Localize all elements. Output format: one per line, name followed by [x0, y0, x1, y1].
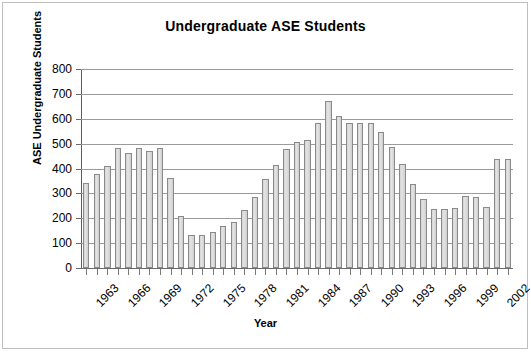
- x-tick-1989: [360, 269, 361, 275]
- y-tick-label-0: 0: [38, 261, 72, 275]
- x-tick-2003: [508, 269, 509, 275]
- gridline-800: [81, 69, 513, 70]
- x-tick-2001: [487, 269, 488, 275]
- y-axis-tick-labels: 0100200300400500600700800: [36, 0, 72, 352]
- gridline-700: [81, 94, 513, 95]
- x-tick-1992: [392, 269, 393, 275]
- x-tick-1999: [466, 269, 467, 275]
- x-tick-1988: [350, 269, 351, 275]
- bar: [452, 208, 458, 268]
- y-tick-200: [76, 218, 81, 219]
- x-tick-1983: [297, 269, 298, 275]
- bar: [483, 207, 489, 268]
- chart-figure: Undergraduate ASE Students ASE Undergrad…: [0, 0, 531, 352]
- bar: [441, 209, 447, 268]
- x-tick-1966: [118, 269, 119, 275]
- x-tick-1997: [445, 269, 446, 275]
- bar: [188, 235, 194, 268]
- bar: [178, 216, 184, 268]
- bar: [494, 159, 500, 268]
- x-tick-1995: [423, 269, 424, 275]
- bar: [420, 199, 426, 268]
- bar: [167, 178, 173, 268]
- x-tick-1985: [318, 269, 319, 275]
- x-tick-2002: [497, 269, 498, 275]
- x-tick-1963: [86, 269, 87, 275]
- bar: [304, 140, 310, 268]
- bar: [294, 142, 300, 268]
- bar: [315, 123, 321, 268]
- bar: [378, 132, 384, 268]
- bar: [273, 165, 279, 268]
- x-tick-2000: [476, 269, 477, 275]
- bar: [346, 123, 352, 268]
- y-tick-label-100: 100: [38, 236, 72, 250]
- bar: [199, 235, 205, 268]
- bar: [410, 184, 416, 268]
- x-tick-1976: [223, 269, 224, 275]
- bar: [505, 159, 511, 268]
- x-tick-1991: [381, 269, 382, 275]
- bar: [104, 166, 110, 268]
- x-tick-1975: [213, 269, 214, 275]
- x-tick-1993: [402, 269, 403, 275]
- y-tick-500: [76, 144, 81, 145]
- bar: [462, 196, 468, 268]
- x-tick-1979: [255, 269, 256, 275]
- y-tick-label-200: 200: [38, 211, 72, 225]
- x-tick-1978: [244, 269, 245, 275]
- y-tick-label-700: 700: [38, 87, 72, 101]
- y-tick-label-400: 400: [38, 162, 72, 176]
- chart-title: Undergraduate ASE Students: [0, 18, 531, 34]
- x-tick-1973: [192, 269, 193, 275]
- bar: [357, 123, 363, 268]
- x-tick-1982: [286, 269, 287, 275]
- x-tick-1974: [202, 269, 203, 275]
- bar: [157, 148, 163, 268]
- x-tick-1994: [413, 269, 414, 275]
- y-tick-800: [76, 69, 81, 70]
- x-tick-1996: [434, 269, 435, 275]
- x-tick-1972: [181, 269, 182, 275]
- bar: [262, 179, 268, 268]
- x-tick-1998: [455, 269, 456, 275]
- y-tick-700: [76, 94, 81, 95]
- y-tick-label-300: 300: [38, 186, 72, 200]
- x-axis-title: Year: [0, 317, 531, 329]
- y-tick-100: [76, 243, 81, 244]
- bar: [115, 148, 121, 268]
- x-tick-1980: [265, 269, 266, 275]
- y-tick-label-600: 600: [38, 112, 72, 126]
- y-tick-300: [76, 193, 81, 194]
- y-tick-label-800: 800: [38, 62, 72, 76]
- y-tick-600: [76, 119, 81, 120]
- x-tick-1981: [276, 269, 277, 275]
- bar: [241, 210, 247, 268]
- x-tick-1990: [371, 269, 372, 275]
- x-tick-1965: [107, 269, 108, 275]
- bar: [389, 147, 395, 268]
- x-tick-1968: [139, 269, 140, 275]
- y-tick-label-500: 500: [38, 137, 72, 151]
- x-tick-1984: [308, 269, 309, 275]
- bar: [210, 232, 216, 268]
- bar: [368, 123, 374, 268]
- y-tick-0: [76, 268, 81, 269]
- x-tick-1970: [160, 269, 161, 275]
- bar: [146, 151, 152, 268]
- bar: [252, 197, 258, 268]
- bar: [431, 209, 437, 268]
- x-tick-1969: [149, 269, 150, 275]
- plot-area: [81, 69, 513, 268]
- bar: [336, 116, 342, 268]
- x-tick-1986: [329, 269, 330, 275]
- x-tick-1987: [339, 269, 340, 275]
- bar: [283, 149, 289, 268]
- bar: [399, 164, 405, 268]
- gridline-600: [81, 119, 513, 120]
- bar: [83, 183, 89, 268]
- x-tick-1967: [128, 269, 129, 275]
- bar: [231, 222, 237, 268]
- bar: [136, 148, 142, 268]
- bar: [325, 101, 331, 268]
